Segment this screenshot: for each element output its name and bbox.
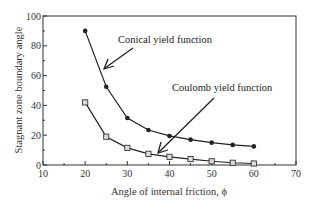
data-point xyxy=(83,29,88,34)
data-point xyxy=(230,143,235,148)
x-tick-labels: 10203040506070 xyxy=(38,168,301,179)
x-tick-label: 60 xyxy=(249,168,259,179)
y-tick-label: 20 xyxy=(31,130,41,141)
series-lines xyxy=(83,29,257,167)
data-point xyxy=(83,100,88,105)
x-tick-label: 50 xyxy=(207,168,217,179)
data-point xyxy=(125,116,130,121)
y-tick-label: 40 xyxy=(31,100,41,111)
data-point xyxy=(125,145,130,150)
y-tick-labels: 020406080100 xyxy=(26,11,41,171)
data-point xyxy=(104,134,109,139)
data-point xyxy=(251,161,256,166)
x-tick-label: 70 xyxy=(291,168,301,179)
y-tick-label: 0 xyxy=(36,160,41,171)
data-point xyxy=(188,156,193,161)
data-point xyxy=(146,151,151,156)
y-axis-label: Stagnant zone boundary angle xyxy=(13,26,24,153)
data-point xyxy=(104,84,109,89)
data-point xyxy=(188,137,193,142)
arrow-coulomb xyxy=(159,98,214,152)
annotation-coulomb: Coulomb yield function xyxy=(172,82,273,93)
arrow-conical xyxy=(105,48,133,68)
data-point xyxy=(209,140,214,145)
x-tick-label: 20 xyxy=(80,168,90,179)
x-axis-label: Angle of internal friction, ϕ xyxy=(111,186,228,197)
chart: 10203040506070 020406080100 Conical yiel… xyxy=(0,0,311,204)
data-point xyxy=(209,159,214,164)
y-tick-label: 100 xyxy=(26,11,41,22)
x-tick-label: 30 xyxy=(122,168,132,179)
data-point xyxy=(167,154,172,159)
data-point xyxy=(230,160,235,165)
annotation-conical: Conical yield function xyxy=(118,34,213,45)
x-tick-label: 40 xyxy=(165,168,175,179)
data-point xyxy=(167,134,172,139)
y-tick-label: 60 xyxy=(31,70,41,81)
data-point xyxy=(146,128,151,133)
y-tick-label: 80 xyxy=(31,40,41,51)
data-point xyxy=(252,144,257,149)
